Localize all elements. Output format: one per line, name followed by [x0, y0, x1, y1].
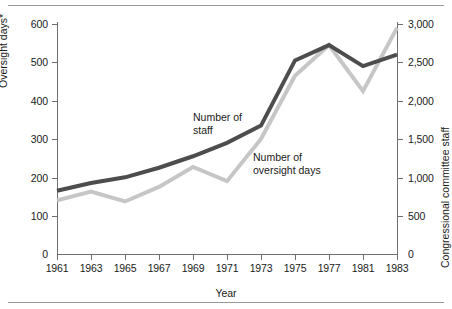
series-lines-svg — [0, 0, 452, 309]
series-annotation-oversight-line2: oversight days — [253, 164, 321, 176]
series-annotation-oversight-line1: Number of — [253, 151, 302, 163]
series-annotation-staff-line1: Number of — [193, 111, 242, 123]
series-annotation-number-of-staff: Number of staff — [193, 111, 242, 137]
series-annotation-number-of-oversight-days: Number of oversight days — [253, 151, 321, 177]
chart-figure: 600 500 400 300 200 100 0 3,000 2,500 2,… — [0, 0, 452, 309]
series-annotation-staff-line2: staff — [193, 124, 213, 136]
